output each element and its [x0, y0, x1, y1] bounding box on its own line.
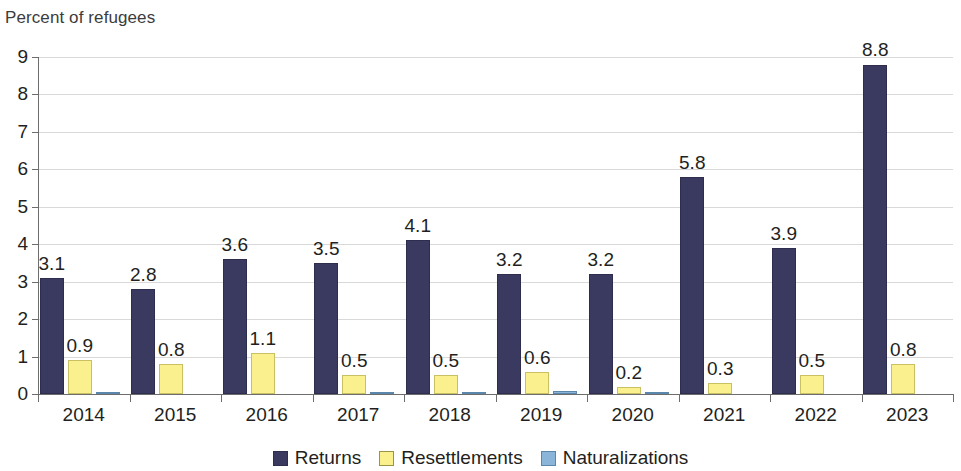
gridline: [38, 282, 953, 283]
data-label-resettlements-2020: 0.2: [599, 363, 659, 382]
bar-resettlements-2014: [68, 360, 92, 394]
legend-swatch-naturalizations-icon: [541, 451, 556, 466]
x-axis-tick: [953, 394, 954, 402]
x-axis-tick: [404, 394, 405, 402]
data-label-returns-2023: 8.8: [845, 40, 905, 59]
x-axis-tick: [221, 394, 222, 402]
gridline: [38, 319, 953, 320]
y-axis-tick-label: 3: [17, 272, 28, 291]
legend-label-returns: Returns: [295, 447, 362, 469]
bar-resettlements-2016: [251, 353, 275, 394]
y-axis-tick: [32, 207, 39, 208]
y-axis-tick: [32, 132, 39, 133]
x-axis-label-2015: 2015: [130, 404, 220, 426]
y-axis-tick: [32, 244, 39, 245]
y-axis-tick: [32, 282, 39, 283]
bar-naturalizations-2018: [462, 392, 486, 394]
gridline: [38, 57, 953, 58]
y-axis-tick-label: 2: [17, 309, 28, 328]
legend-swatch-returns-icon: [273, 451, 288, 466]
x-axis-tick: [587, 394, 588, 402]
data-label-resettlements-2023: 0.8: [873, 340, 933, 359]
data-label-returns-2016: 3.6: [205, 235, 265, 254]
data-label-resettlements-2019: 0.6: [507, 348, 567, 367]
bar-naturalizations-2020: [645, 392, 669, 394]
x-axis-tick: [496, 394, 497, 402]
x-axis-label-2014: 2014: [39, 404, 129, 426]
gridline: [38, 244, 953, 245]
y-axis-tick: [32, 94, 39, 95]
data-label-resettlements-2016: 1.1: [233, 329, 293, 348]
bar-resettlements-2020: [617, 387, 641, 394]
y-axis-tick: [32, 169, 39, 170]
data-label-resettlements-2021: 0.3: [690, 359, 750, 378]
y-axis-tick-labels: 0123456789: [0, 0, 32, 471]
legend-item-resettlements[interactable]: Resettlements: [379, 447, 522, 469]
data-label-resettlements-2022: 0.5: [782, 351, 842, 370]
x-axis-label-2021: 2021: [679, 404, 769, 426]
data-label-returns-2018: 4.1: [388, 216, 448, 235]
x-axis-tick: [313, 394, 314, 402]
bar-naturalizations-2019: [553, 391, 577, 394]
legend-swatch-resettlements-icon: [379, 451, 394, 466]
data-label-resettlements-2018: 0.5: [416, 351, 476, 370]
y-axis-tick-label: 6: [17, 159, 28, 178]
bar-chart: Percent of refugees 0123456789 201420152…: [0, 0, 961, 471]
data-label-resettlements-2017: 0.5: [324, 351, 384, 370]
y-axis-tick: [32, 319, 39, 320]
gridline: [38, 169, 953, 170]
data-label-returns-2020: 3.2: [571, 250, 631, 269]
x-axis-label-2018: 2018: [405, 404, 495, 426]
y-axis-tick-label: 5: [17, 197, 28, 216]
x-axis-label-2022: 2022: [771, 404, 861, 426]
legend-label-naturalizations: Naturalizations: [563, 447, 689, 469]
y-axis-tick-label: 7: [17, 122, 28, 141]
x-axis-label-2019: 2019: [496, 404, 586, 426]
data-label-returns-2021: 5.8: [662, 153, 722, 172]
data-label-resettlements-2015: 0.8: [141, 340, 201, 359]
x-axis-tick: [130, 394, 131, 402]
y-axis-tick-label: 1: [17, 347, 28, 366]
bar-resettlements-2021: [708, 383, 732, 394]
bar-resettlements-2019: [525, 372, 549, 394]
bar-naturalizations-2017: [370, 392, 394, 394]
x-axis-tick: [679, 394, 680, 402]
bar-returns-2016: [223, 259, 247, 394]
x-axis-label-2020: 2020: [588, 404, 678, 426]
data-label-returns-2019: 3.2: [479, 250, 539, 269]
data-label-returns-2015: 2.8: [113, 265, 173, 284]
bar-resettlements-2022: [800, 375, 824, 394]
legend-item-naturalizations[interactable]: Naturalizations: [541, 447, 689, 469]
y-axis-tick-label: 0: [17, 384, 28, 403]
bar-returns-2018: [406, 240, 430, 394]
legend-item-returns[interactable]: Returns: [273, 447, 362, 469]
y-axis-tick: [32, 357, 39, 358]
bar-resettlements-2023: [891, 364, 915, 394]
y-axis-tick-label: 4: [17, 234, 28, 253]
x-axis-label-2023: 2023: [862, 404, 952, 426]
bar-resettlements-2015: [159, 364, 183, 394]
x-axis-tick: [862, 394, 863, 402]
chart-legend: ReturnsResettlementsNaturalizations: [0, 447, 961, 469]
bar-resettlements-2018: [434, 375, 458, 394]
x-axis-tick: [38, 394, 39, 402]
bar-returns-2022: [772, 248, 796, 394]
gridline: [38, 132, 953, 133]
bar-returns-2019: [497, 274, 521, 394]
bar-resettlements-2017: [342, 375, 366, 394]
y-axis-tick-label: 9: [17, 47, 28, 66]
data-label-returns-2014: 3.1: [22, 254, 82, 273]
data-label-returns-2017: 3.5: [296, 239, 356, 258]
bar-naturalizations-2014: [96, 392, 120, 394]
legend-label-resettlements: Resettlements: [401, 447, 522, 469]
bar-returns-2017: [314, 263, 338, 394]
data-label-returns-2022: 3.9: [754, 224, 814, 243]
data-label-resettlements-2014: 0.9: [50, 336, 110, 355]
x-axis-label-2016: 2016: [222, 404, 312, 426]
y-axis-tick-label: 8: [17, 84, 28, 103]
gridline: [38, 94, 953, 95]
y-axis-tick: [32, 57, 39, 58]
x-axis-tick: [770, 394, 771, 402]
gridline: [38, 207, 953, 208]
x-axis-label-2017: 2017: [313, 404, 403, 426]
